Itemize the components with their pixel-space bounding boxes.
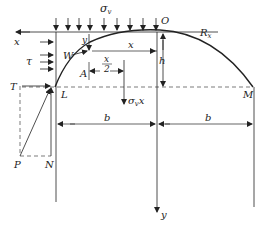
w-force-arrow: [72, 51, 87, 55]
y-small-label: y: [81, 35, 88, 45]
arch-load-diagram: σv O Rx x y W x x 2 A h τ T L M σvx b b …: [0, 0, 265, 226]
x-length-label: x: [128, 39, 134, 50]
origin-label-o: O: [161, 15, 169, 26]
load-resultant-label: σvx: [128, 95, 145, 108]
h-label: h: [159, 55, 165, 66]
p-force-arrow: [20, 89, 50, 156]
p-label: P: [13, 159, 21, 170]
vertical-load-arrows: [56, 18, 156, 30]
t-label: T: [10, 81, 18, 92]
y-axis-label: y: [160, 209, 167, 220]
n-label: N: [44, 159, 55, 170]
w-label: W: [63, 50, 74, 61]
tau-label: τ: [26, 55, 33, 68]
sigma-v-label: σv: [100, 2, 112, 16]
m-label: M: [242, 89, 254, 100]
a-label: A: [79, 68, 87, 79]
rx-label: Rx: [199, 27, 212, 40]
x-half-denominator: 2: [103, 64, 110, 74]
l-label: L: [60, 89, 68, 100]
x-half-numerator: x: [104, 54, 109, 64]
shear-tau-arrows: [40, 42, 53, 69]
x-axis-label: x: [14, 36, 20, 47]
b-right-label: b: [205, 112, 211, 123]
b-left-label: b: [104, 112, 110, 123]
